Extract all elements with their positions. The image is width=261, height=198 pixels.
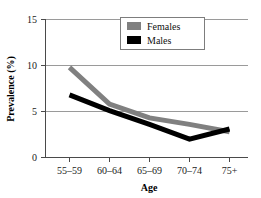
prevalence-by-age-line-chart: 15 10 5 0 Prevalence (%) 55–59 60–64 65–… — [0, 0, 261, 198]
y-axis-title: Prevalence (%) — [5, 56, 17, 122]
y-tick-label-5: 5 — [32, 106, 37, 117]
legend: Females Males — [121, 18, 205, 50]
x-tick-label-55-59: 55–59 — [57, 165, 82, 176]
legend-label-females: Females — [147, 21, 180, 32]
legend-swatch-males — [127, 36, 141, 44]
y-tick-label-15: 15 — [27, 14, 37, 25]
x-tick-label-75plus: 75+ — [222, 165, 238, 176]
legend-label-males: Males — [147, 35, 172, 46]
y-tick-label-0: 0 — [32, 152, 37, 163]
x-axis-title: Age — [141, 182, 158, 193]
chart-canvas: 15 10 5 0 Prevalence (%) 55–59 60–64 65–… — [0, 0, 261, 198]
x-tick-label-70-74: 70–74 — [177, 165, 202, 176]
x-tick-label-60-64: 60–64 — [97, 165, 122, 176]
x-tick-label-65-69: 65–69 — [137, 165, 162, 176]
y-tick-label-10: 10 — [27, 60, 37, 71]
legend-swatch-females — [127, 22, 141, 30]
